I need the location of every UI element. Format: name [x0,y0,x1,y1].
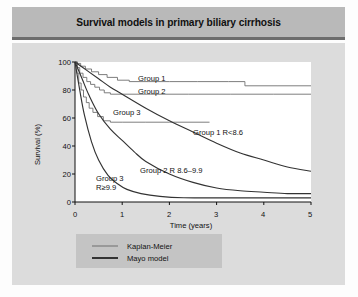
x-tick-0: 0 [68,210,82,219]
x-tick-3: 3 [209,210,223,219]
x-tick-2: 2 [162,210,176,219]
annotation-group-3-mayo-line2: R≥9.9 [96,184,116,192]
legend-line-kaplan-meier [92,243,118,249]
y-tick-100: 100 [49,58,71,67]
y-tick-20: 20 [49,170,71,179]
legend-label-mayo-model: Mayo model [127,254,168,263]
y-tick-40: 40 [49,142,71,151]
legend-box: Kaplan-Meier Mayo model [76,234,222,268]
figure-title-bar: Survival models in primary biliary cirrh… [12,7,345,40]
plot-wrapper: 100 80 60 40 20 0 0 1 2 3 4 5 Survival (… [63,62,311,212]
figure-title: Survival models in primary biliary cirrh… [76,17,281,28]
y-tick-0: 0 [49,198,71,207]
x-tick-1: 1 [115,210,129,219]
annotation-group-2-mayo: Group 2 R 8.6–9.9 [140,167,202,175]
annotation-group-3: Group 3 [113,109,140,117]
annotation-group-1-mayo: Group 1 R<8.6 [193,129,243,137]
figure-container: Survival models in primary biliary cirrh… [0,0,358,297]
series-group-2-kaplan-meier [75,62,311,94]
y-tick-60: 60 [49,114,71,123]
legend-line-mayo-model [92,255,118,261]
chart-svg [63,62,311,227]
x-axis-label: Time (years) [141,221,241,230]
annotation-group-1: Group 1 [138,75,165,83]
x-tick-5: 5 [303,210,317,219]
y-tick-80: 80 [49,86,71,95]
legend-item-mayo-model: Mayo model [76,251,222,265]
annotation-group-2: Group 2 [138,88,165,96]
x-tick-4: 4 [256,210,270,219]
series-group-1-mayo-model-r-8-6 [75,62,311,171]
legend-label-kaplan-meier: Kaplan-Meier [127,242,172,251]
series-group-1-kaplan-meier [75,62,311,86]
annotation-group-3-mayo-line1: Group 3 [96,175,123,183]
y-axis-label: Survival (%) [33,124,42,165]
figure-body-panel: 100 80 60 40 20 0 0 1 2 3 4 5 Survival (… [12,43,345,285]
